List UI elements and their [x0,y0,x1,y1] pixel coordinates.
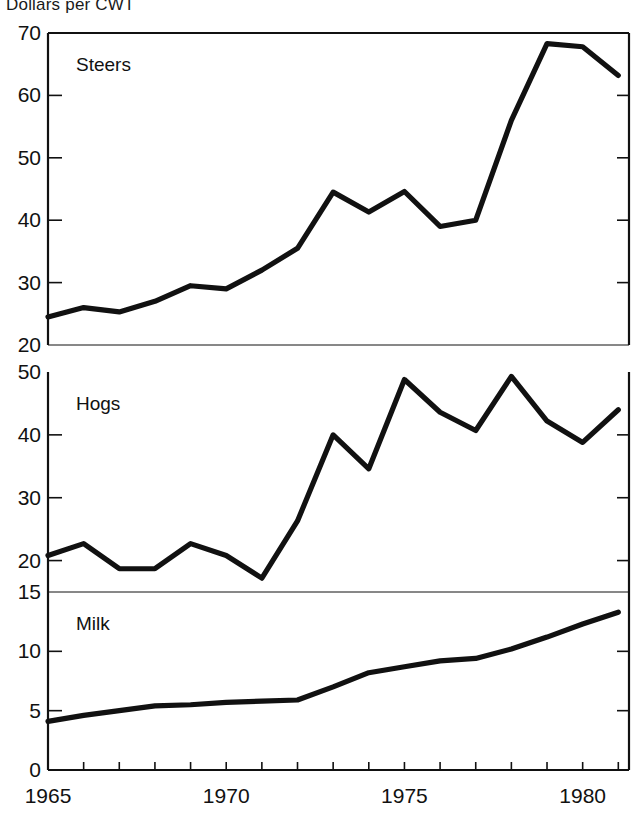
panel-label-steers: Steers [76,54,131,75]
y-tick-label: 60 [18,83,41,106]
x-tick-label: 1970 [203,784,250,807]
y-tick-label: 30 [18,271,41,294]
x-tick-label: 1975 [381,784,428,807]
y-tick-label: 30 [18,486,41,509]
y-tick-label: 70 [18,21,41,44]
y-tick-label: 0 [29,758,41,781]
x-tick-label: 1965 [25,784,72,807]
y-tick-label: 5 [29,699,41,722]
y-tick-label: 10 [18,639,41,662]
y-tick-label: 50 [18,360,41,383]
x-tick-label: 1980 [559,784,606,807]
multi-panel-line-chart: 203040506070Steers20304050Hogs051015Milk… [0,0,641,830]
series-line-steers [48,44,618,317]
panel-label-hogs: Hogs [76,393,120,414]
y-tick-label: 20 [18,333,41,356]
series-line-milk [48,612,618,721]
y-tick-label: 20 [18,549,41,572]
y-tick-label: 15 [18,580,41,603]
series-line-hogs [48,376,618,578]
panel-label-milk: Milk [76,613,110,634]
y-tick-label: 40 [18,208,41,231]
figure-root: Dollars per CWT 203040506070Steers203040… [0,0,641,830]
y-tick-label: 50 [18,146,41,169]
y-tick-label: 40 [18,423,41,446]
